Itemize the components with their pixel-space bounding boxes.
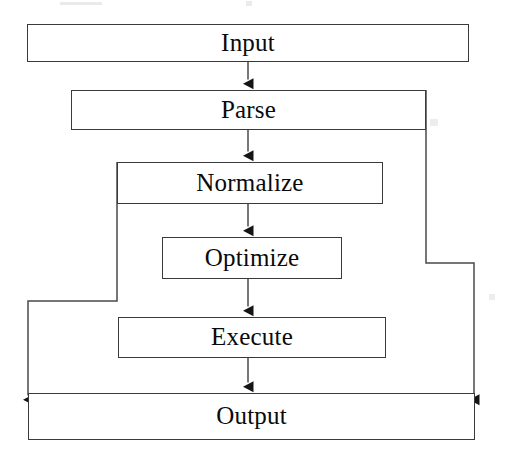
node-parse-label: Parse	[221, 97, 276, 122]
node-normalize-label: Normalize	[196, 170, 303, 195]
scan-artifact	[430, 119, 438, 126]
scan-artifact	[246, 1, 252, 6]
edge-parse-bypass-to-output	[426, 90, 474, 396]
node-optimize[interactable]: Optimize	[162, 237, 342, 279]
node-output[interactable]: Output	[28, 393, 475, 440]
node-parse[interactable]: Parse	[71, 90, 426, 130]
node-optimize-label: Optimize	[205, 245, 300, 270]
flowchart-canvas: Input Parse Normalize Optimize Execute O…	[0, 0, 508, 463]
node-execute-label: Execute	[211, 324, 293, 349]
node-output-label: Output	[216, 403, 287, 428]
edge-normalize-bypass-to-output	[28, 162, 117, 396]
scan-artifact	[60, 2, 102, 5]
node-input[interactable]: Input	[27, 24, 469, 62]
node-input-label: Input	[221, 30, 275, 55]
node-execute[interactable]: Execute	[118, 317, 386, 358]
node-normalize[interactable]: Normalize	[117, 162, 383, 204]
scan-artifact	[489, 294, 495, 300]
